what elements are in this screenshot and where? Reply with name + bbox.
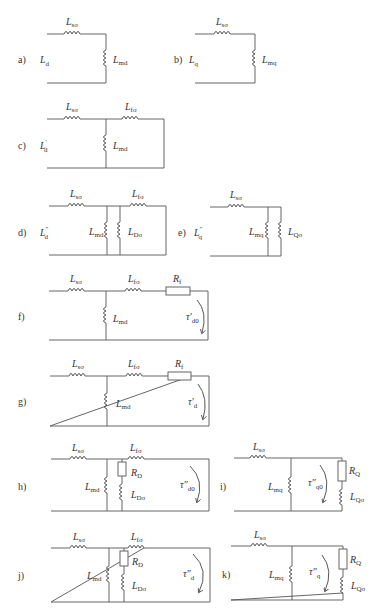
stator-leakage-inductor [69,374,85,377]
panel-g: g) Lsσ Lfσ Rf Lmd τ′d [18,358,209,426]
field-leakage-label: Lfσ [130,531,143,544]
stator-leakage-inductor [228,205,244,208]
magnetizing-label: Lmq [267,481,283,494]
magnetizing-label: Lmq [261,54,277,67]
magnetizing-inductor [289,477,292,493]
stator-leakage-inductor [70,546,86,549]
field-resistor-label: Rf [174,358,184,371]
stator-leakage-label: Lsσ [229,189,242,202]
magnetizing-inductor [290,566,293,582]
time-constant-arrow [198,384,205,419]
magnetizing-inductor [104,307,107,323]
panel-label: c) [18,140,26,152]
stator-leakage-label: Lsσ [252,441,265,454]
field-leakage-label: Lfσ [127,358,140,371]
magnetizing-label: Lmd [112,313,128,326]
q-damper-resistor [339,549,347,569]
damper-leakage-label: LDσ [127,226,143,239]
q-damper-resistor-label: RQ [349,554,361,567]
damper-leakage-inductor [118,222,121,238]
stator-leakage-inductor [64,32,80,35]
circuit-wires [50,376,209,426]
q-damper-leakage-inductor [279,222,282,238]
circuit-wires [231,546,343,600]
port-inductance-label: L″d [39,225,49,241]
damper-leakage-inductor [122,574,125,590]
magnetizing-inductor [104,135,107,151]
stator-leakage-inductor [250,456,266,459]
stator-leakage-label: Lsσ [69,273,82,286]
damper-resistor-label: RD [131,556,143,569]
damper-leakage-label: LDσ [130,489,146,502]
magnetizing-inductor [105,222,108,238]
magnetizing-inductor [253,50,256,66]
magnetizing-inductor [266,222,269,238]
time-constant-label: τ″q [309,566,321,580]
panel-label: h) [18,481,26,493]
magnetizing-label: Lmd [112,54,128,67]
stator-leakage-label: Lsσ [69,188,82,201]
panel-label: g) [18,396,26,408]
panel-j: j) Lsσ Lfσ Lmd RD LDσ τ″d [17,531,210,602]
stator-leakage-label: Lsσ [71,358,84,371]
magnetizing-label: Lmq [268,569,284,582]
damper-leakage-inductor [120,484,123,500]
field-leakage-label: Lfσ [124,101,137,114]
time-constant-label: τ″d [183,568,195,582]
field-resistor [166,287,190,295]
stator-leakage-label: Lsσ [215,16,228,29]
port-inductance-label: L′d [39,138,48,154]
field-leakage-inductor [126,374,142,377]
panel-c: c) L′d Lsσ Lfσ Lmd [18,101,164,168]
port-inductance-label: Lq [188,54,199,68]
panel-label: k) [222,569,230,581]
q-damper-resistor-label: RQ [348,465,360,478]
field-resistor-label: Rf [172,273,182,286]
time-constant-arrow [322,555,329,591]
stator-leakage-label: Lsσ [71,442,84,455]
panel-d: d) L″d Lsσ Lfσ Lmd LDσ [18,188,166,255]
panel-label: f) [18,311,25,323]
magnetizing-label: Lmd [84,481,100,494]
field-leakage-inductor [125,289,141,292]
panel-label: b) [174,54,182,66]
time-constant-label: τ″q0 [308,477,323,491]
stator-leakage-inductor [70,457,86,460]
damper-resistor [120,551,128,566]
panel-b: b) Lq Lsσ Lmq [174,16,277,83]
magnetizing-label: Lmd [88,226,104,239]
panel-e: e) L″q Lsσ Lmq LQσ [178,189,303,256]
q-damper-leakage-label: LQσ [349,491,365,504]
panel-h: h) Lsσ Lfσ Lmd RD LDσ τ″d0 [18,442,209,511]
field-leakage-label: Lfσ [129,442,142,455]
circuit-wires [49,291,208,340]
time-constant-label: τ″d0 [180,479,195,493]
magnetizing-inductor [105,477,108,493]
panel-label: i) [220,481,226,493]
magnetizing-inductor [104,50,107,66]
field-leakage-label: Lfσ [131,188,144,201]
q-damper-leakage-label: LQσ [287,226,303,239]
field-leakage-inductor [130,204,146,207]
magnetizing-label: Lmd [86,570,102,583]
stator-leakage-label: Lsσ [253,529,266,542]
time-constant-label: τ′d0 [186,311,199,325]
damper-resistor [118,462,126,476]
stator-leakage-label: Lsσ [72,531,85,544]
q-damper-leakage-label: LQσ [350,580,366,593]
time-constant-arrow [193,554,203,592]
field-leakage-inductor [128,546,144,549]
panel-label: j) [17,570,24,582]
stator-leakage-label: Lsσ [65,16,78,29]
stator-leakage-inductor [64,117,80,120]
circuit-wires [195,34,255,83]
stator-leakage-inductor [68,289,84,292]
time-constant-arrow [190,466,200,502]
panel-i: i) Lsσ Lmq RQ LQσ τ″q0 [220,441,365,511]
panel-label: e) [178,227,186,239]
port-inductance-label: L″q [193,225,203,241]
panel-k: k) Lsσ Lmq RQ LQσ τ″q [222,529,366,600]
circuit-wires [210,207,281,256]
field-leakage-label: Lfσ [127,273,140,286]
panel-label: d) [18,227,26,239]
